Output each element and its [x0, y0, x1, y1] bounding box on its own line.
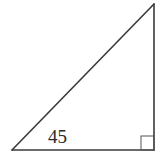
- hypotenuse: [12, 4, 154, 150]
- base-length-label: 45: [48, 126, 67, 147]
- right-triangle-diagram: 45: [0, 0, 166, 162]
- right-angle-marker-icon: [141, 136, 154, 150]
